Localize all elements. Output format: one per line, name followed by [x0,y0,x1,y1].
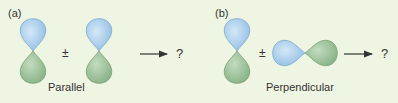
panel-a-orbital-1 [20,19,46,84]
panel-b-orbital-horizontal [273,40,338,66]
panel-b-caption: Perpendicular [266,81,334,93]
blue-lobe [224,19,250,51]
green-lobe [224,51,250,83]
blue-lobe [86,19,112,51]
panel-b-label: (b) [215,7,228,19]
panel-a-caption: Parallel [48,81,85,93]
panel-b-question: ? [381,46,388,61]
green-lobe [305,40,337,66]
panel-a-orbital-2 [86,19,112,84]
panel-b-plus-minus: ± [259,46,266,60]
panel-a-plus-minus: ± [62,46,69,60]
panel-a-label: (a) [8,7,21,19]
panel-a-question: ? [176,46,183,61]
green-lobe [86,51,112,83]
blue-lobe [20,19,46,51]
panel-b-orbital-vertical [224,19,250,84]
green-lobe [20,51,46,83]
blue-lobe [273,40,305,66]
